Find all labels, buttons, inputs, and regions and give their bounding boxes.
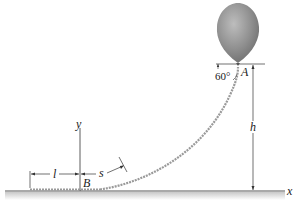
y-axis-label: y (75, 117, 82, 131)
s-dimension-tick (119, 157, 127, 172)
point-b-label: B (83, 176, 91, 190)
balloon-knot (236, 63, 240, 66)
balloon (217, 3, 259, 63)
arrow-head (252, 65, 255, 69)
arrow-head (31, 173, 35, 176)
cord-curve (100, 67, 238, 190)
length-l-label: l (53, 167, 57, 181)
arrow-head (75, 173, 79, 176)
height-h-label: h (250, 120, 256, 134)
point-a-label: A (240, 65, 249, 79)
ground-shading (5, 192, 285, 200)
arrow-head (252, 186, 255, 190)
x-axis-label: x (286, 184, 293, 198)
arrow-head (217, 64, 219, 67)
arrow-head (120, 166, 124, 169)
angle-label: 60° (215, 70, 230, 82)
arc-s-label: s (99, 166, 104, 180)
balloon-cord-diagram: x y l s B 60° A h (0, 0, 300, 215)
